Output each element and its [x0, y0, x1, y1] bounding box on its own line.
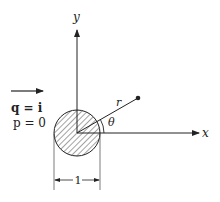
radius-label: r	[116, 96, 122, 109]
field-point	[136, 96, 141, 101]
y-axis-label: y	[72, 10, 80, 24]
x-axis-label: x	[202, 126, 209, 140]
pressure-label: p = 0	[13, 116, 46, 130]
diameter-label: 1	[75, 174, 82, 187]
cylinder-flow-diagram: y x r θ q = i p = 0 1	[0, 0, 220, 202]
flow-velocity-label: q = i	[11, 101, 43, 115]
diagram-canvas: y x r θ q = i p = 0 1	[0, 0, 220, 202]
angle-label: θ	[108, 116, 115, 129]
angle-arc	[100, 120, 104, 134]
